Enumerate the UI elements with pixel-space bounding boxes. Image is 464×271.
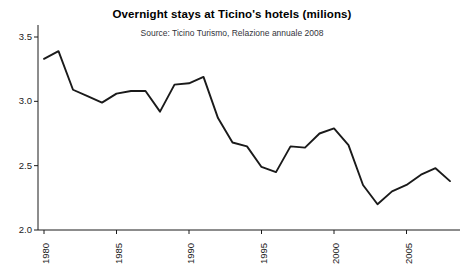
plot-area: 3.53.02.52.0 198019851990199520002005 (0, 0, 464, 271)
axes (34, 25, 460, 234)
series-line-0 (44, 51, 450, 204)
y-axis-tick-label: 2.5 (2, 160, 32, 171)
y-axis-tick-label: 3.5 (2, 31, 32, 42)
x-axis-tick-label: 1990 (185, 243, 196, 264)
x-axis-tick-label: 2005 (403, 243, 414, 264)
y-axis-tick-label: 2.0 (2, 224, 32, 235)
x-axis-tick-label: 1985 (113, 243, 124, 264)
data-series (44, 51, 450, 204)
x-axis-tick-label: 1995 (258, 243, 269, 264)
line-chart-plot (0, 0, 464, 271)
chart-container: Overnight stays at Ticino's hotels (mili… (0, 0, 464, 271)
x-axis-tick-label: 2000 (330, 243, 341, 264)
y-axis-tick-label: 3.0 (2, 95, 32, 106)
x-axis-tick-label: 1980 (40, 243, 51, 264)
